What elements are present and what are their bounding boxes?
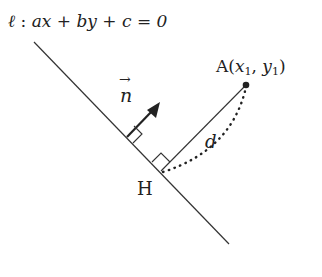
normal-vector-label: → n — [120, 84, 132, 106]
diagram-graphics — [0, 0, 322, 277]
line-equation-label: ℓ : ax + by + c = 0 — [8, 11, 167, 32]
normal-vector-arrow — [127, 102, 160, 137]
foot-point-label: H — [137, 178, 153, 199]
right-angle-marker-h — [152, 153, 170, 162]
point-a-dot — [243, 82, 250, 89]
point-a-label: A(x1, y1) — [216, 56, 286, 78]
perpendicular-segment — [161, 85, 246, 171]
distance-label: d — [205, 131, 217, 152]
point-to-line-distance-diagram: ℓ : ax + by + c = 0 A(x1, y1) H d → n — [0, 0, 322, 277]
line-l — [34, 42, 229, 244]
vector-arrow-icon: → — [119, 71, 131, 87]
distance-arc — [163, 87, 246, 172]
